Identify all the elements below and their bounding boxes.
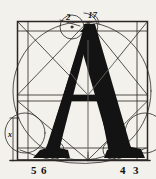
letter-a-glyph xyxy=(33,23,145,158)
label-top-right: 17 xyxy=(88,11,97,20)
label-left-margin: x xyxy=(8,131,12,139)
typographic-construction-plate: 2 17 x 5 6 4 3 xyxy=(0,0,156,179)
label-bottom-left-first: 5 xyxy=(31,165,37,176)
label-bottom-right-second: 3 xyxy=(133,165,139,176)
letter-a-left-foot xyxy=(33,148,70,159)
label-bottom-right-first: 4 xyxy=(120,165,126,176)
letter-a-left-stroke xyxy=(43,30,90,158)
construction-diagram-svg xyxy=(0,0,156,179)
label-top-left: 2 xyxy=(66,13,71,22)
guide-lines-group xyxy=(5,13,156,164)
apex-center-dot xyxy=(71,26,73,28)
letter-a-crossbar xyxy=(67,95,104,101)
label-bottom-left-second: 6 xyxy=(41,165,47,176)
